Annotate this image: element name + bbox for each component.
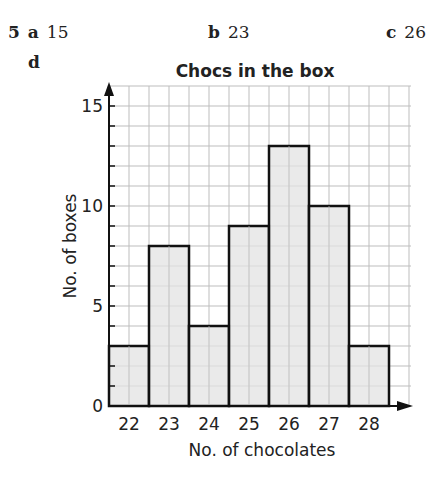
x-tick-labels: 22232425262728 [118, 414, 380, 434]
x-axis-label: No. of chocolates [189, 440, 336, 460]
histogram-chart: Chocs in the box No. of chocolates No. o… [0, 0, 438, 478]
chart-title: Chocs in the box [176, 61, 335, 81]
svg-text:10: 10 [81, 196, 103, 216]
svg-text:22: 22 [118, 414, 140, 434]
svg-text:5: 5 [92, 296, 103, 316]
y-tick-labels: 051015 [81, 96, 103, 416]
svg-text:0: 0 [92, 396, 103, 416]
svg-text:25: 25 [238, 414, 260, 434]
svg-text:15: 15 [81, 96, 103, 116]
svg-text:28: 28 [358, 414, 380, 434]
y-axis-label: No. of boxes [60, 193, 80, 298]
svg-text:24: 24 [198, 414, 220, 434]
svg-text:23: 23 [158, 414, 180, 434]
svg-text:27: 27 [318, 414, 340, 434]
svg-text:26: 26 [278, 414, 300, 434]
